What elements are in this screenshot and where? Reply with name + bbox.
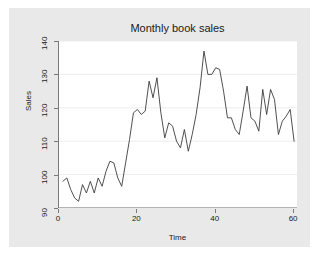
y-tick-label: 110 [40,137,49,150]
plot-area [58,41,297,208]
x-tick-label: 0 [48,214,68,223]
graph-region: Monthly book sales Sales Time 9010011012… [9,8,310,247]
x-tick-label: 20 [126,214,146,223]
plot-svg [59,41,298,208]
x-tick-mark [58,209,59,213]
x-tick-mark [215,209,216,213]
x-axis-title: Time [58,233,297,242]
y-tick-label: 140 [40,37,49,50]
y-tick-label: 100 [40,170,49,183]
x-tick-mark [293,209,294,213]
y-tick-label: 130 [40,70,49,83]
series-line-sales [63,51,294,201]
y-axis-title: Sales [24,91,33,111]
x-tick-mark [136,209,137,213]
y-tick-label: 120 [40,103,49,116]
chart-title: Monthly book sales [58,22,297,35]
gridlines [59,41,298,208]
x-tick-label: 60 [283,214,303,223]
x-tick-label: 40 [205,214,225,223]
chart-container: Monthly book sales Sales Time 9010011012… [0,0,319,255]
